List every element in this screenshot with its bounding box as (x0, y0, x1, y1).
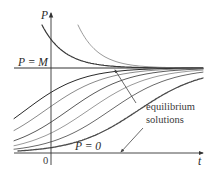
equilibrium-label-zero: P = 0 (74, 140, 101, 152)
decreasing-solution-curve (78, 25, 203, 68)
annotation-arrow-upper (115, 70, 136, 103)
solution-curves (14, 25, 203, 151)
origin-label: 0 (43, 155, 48, 166)
t-axis-label: t (198, 155, 202, 167)
p-axis-label: P (40, 9, 48, 21)
annotation-line1: equilibrium (146, 101, 195, 112)
annotation-arrow-lower (121, 128, 143, 152)
equilibrium-label-m: P = M (17, 56, 49, 68)
decreasing-solution-curve (42, 25, 203, 68)
logistic-diagram: P t 0 P = M P = 0 equilibrium solutions (0, 0, 217, 182)
annotation-line2: solutions (146, 114, 184, 125)
